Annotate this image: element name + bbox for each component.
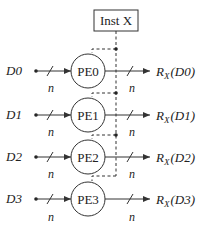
width-label: n (129, 167, 135, 181)
output-label: RX(D2) (155, 150, 195, 167)
input-label: D2 (5, 149, 22, 164)
width-label: n (48, 167, 54, 181)
input-label: D0 (5, 63, 22, 78)
width-label: n (129, 81, 135, 95)
output-label: RX(D0) (155, 64, 195, 81)
pe-row-1: D1 n PE1 n RX(D1) (5, 98, 195, 139)
pe-row-3: D3 n PE3 n RX(D3) (5, 182, 195, 224)
simd-diagram: Inst X D0 n PE0 n RX(D0) D1 n (0, 0, 205, 234)
input-label: D3 (5, 191, 22, 206)
output-label: RX(D1) (155, 108, 195, 125)
input-label: D1 (5, 107, 22, 122)
output-label: RX(D3) (155, 192, 195, 209)
pe-label: PE3 (77, 192, 99, 207)
width-label: n (129, 125, 135, 139)
pe-label: PE0 (77, 64, 99, 79)
width-label: n (129, 210, 135, 224)
instruction-box: Inst X (94, 10, 138, 31)
pe-label: PE1 (77, 108, 99, 123)
pe-row-2: D2 n PE2 n RX(D2) (5, 140, 195, 181)
width-label: n (48, 125, 54, 139)
width-label: n (48, 81, 54, 95)
pe-row-0: D0 n PE0 n RX(D0) (5, 54, 195, 95)
pe-label: PE2 (77, 150, 99, 165)
instruction-label: Inst X (100, 13, 133, 28)
width-label: n (48, 210, 54, 224)
